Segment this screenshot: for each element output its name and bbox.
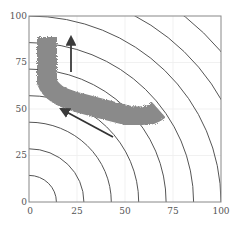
data-band xyxy=(47,37,159,116)
y-tick-50: 50 xyxy=(16,104,28,114)
x-tick-50: 50 xyxy=(119,206,131,216)
x-axis-labels: 0 25 50 75 100 xyxy=(27,206,230,216)
contour-chart: 0 25 50 75 100 0 25 50 75 100 xyxy=(0,0,241,227)
x-tick-0: 0 xyxy=(27,206,33,216)
x-tick-25: 25 xyxy=(71,206,83,216)
x-tick-100: 100 xyxy=(212,206,229,216)
arrows xyxy=(61,37,113,137)
y-tick-100: 100 xyxy=(10,11,27,21)
y-tick-25: 25 xyxy=(16,150,28,160)
y-tick-0: 0 xyxy=(21,197,27,207)
x-tick-75: 75 xyxy=(167,206,179,216)
y-axis-labels: 0 25 50 75 100 xyxy=(10,11,27,207)
y-tick-75: 75 xyxy=(16,57,28,67)
